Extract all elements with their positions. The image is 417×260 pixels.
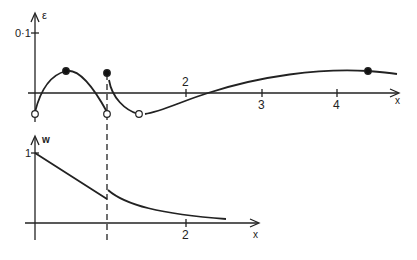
figure: ε 0·1 2 3 4 x w 1 2 x xyxy=(0,0,417,260)
bottom-y-tick-label: 1 xyxy=(25,147,31,159)
epsilon-curve-left xyxy=(35,71,107,112)
top-y-tick-label: 0·1 xyxy=(15,27,31,39)
w-curve xyxy=(35,153,226,219)
epsilon-curve-right xyxy=(109,70,397,114)
bottom-x-label: x xyxy=(253,229,258,240)
bottom-x-tick-2: 2 xyxy=(182,228,189,242)
hollow-marker xyxy=(104,111,111,118)
top-x-tick-3: 3 xyxy=(258,98,265,112)
bottom-y-label: w xyxy=(41,134,50,145)
top-y-label: ε xyxy=(42,9,47,21)
hollow-marker xyxy=(32,111,39,118)
hollow-marker xyxy=(136,111,143,118)
top-x-label: x xyxy=(395,95,400,106)
filled-marker xyxy=(104,70,111,77)
filled-marker xyxy=(63,68,70,75)
top-x-tick-2: 2 xyxy=(182,75,189,89)
top-x-tick-4: 4 xyxy=(333,98,340,112)
filled-marker xyxy=(365,68,372,75)
